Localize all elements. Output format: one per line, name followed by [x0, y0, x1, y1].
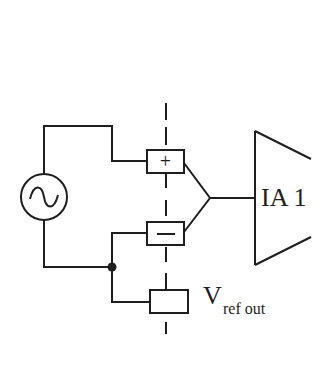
wire-differential-merge: [184, 163, 210, 232]
wire-junction-to-reference: [112, 267, 150, 302]
reference-output-label-sub: ref out: [223, 300, 266, 317]
instrumentation-amplifier: IA 1: [255, 131, 311, 265]
ac-source: [21, 174, 67, 220]
reference-output-label-main: V: [203, 281, 222, 310]
electrode-reference: [150, 290, 188, 313]
reference-output-label: V ref out: [203, 281, 266, 317]
wire-source-to-junction: [44, 220, 112, 267]
sine-wave-icon: [30, 188, 58, 207]
amplifier-top-edge: [255, 131, 311, 159]
amplifier-label: IA 1: [261, 183, 307, 212]
circuit-diagram: + IA 1 V ref out: [0, 0, 324, 388]
amplifier-bottom-edge: [255, 237, 311, 265]
positive-sign: +: [160, 150, 171, 172]
wire-junction-to-negative: [112, 233, 147, 267]
electrode-negative: [147, 222, 184, 245]
junction-dot: [108, 263, 117, 272]
electrode-positive: +: [147, 150, 184, 173]
wire-source-to-positive: [44, 126, 147, 174]
